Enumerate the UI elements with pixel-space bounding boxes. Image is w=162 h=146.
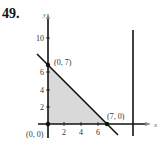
vertex-7-0 [105,122,109,126]
feasible-region-graph: y x 10 6 4 2 2 4 6 (0, 7) (7, 0) (0, 0) [0,0,162,146]
y-tick-4: 4 [40,86,44,95]
vertex-0-7 [46,63,50,67]
y-tick-6: 6 [40,68,44,77]
label-7-0: (7, 0) [107,112,125,121]
y-axis-label: y [42,11,47,19]
y-tick-10: 10 [36,34,44,43]
x-tick-2: 2 [62,128,66,137]
x-tick-4: 4 [79,128,83,137]
x-axis-arrow-icon [145,122,151,126]
label-0-0: (0, 0) [26,130,44,139]
y-axis-arrow-icon [46,13,50,19]
y-tick-2: 2 [40,103,44,112]
label-0-7: (0, 7) [54,58,72,67]
vertex-0-0 [46,122,50,126]
x-axis-label: x [153,121,158,129]
x-tick-6: 6 [96,128,100,137]
